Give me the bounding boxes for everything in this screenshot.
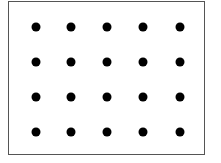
grid-dot xyxy=(67,93,76,102)
grid-dot xyxy=(176,58,185,67)
grid-dot xyxy=(67,58,76,67)
grid-dot xyxy=(139,93,148,102)
grid-dot xyxy=(32,58,41,67)
grid-dot xyxy=(103,58,112,67)
grid-dot xyxy=(176,93,185,102)
grid-dot xyxy=(103,93,112,102)
grid-dot xyxy=(67,23,76,32)
grid-dot xyxy=(32,128,41,137)
grid-dot xyxy=(67,128,76,137)
grid-dot xyxy=(103,128,112,137)
grid-dot xyxy=(32,23,41,32)
grid-dot xyxy=(176,128,185,137)
grid-dot xyxy=(139,58,148,67)
grid-dot xyxy=(139,23,148,32)
grid-dot xyxy=(176,23,185,32)
grid-dot xyxy=(32,93,41,102)
grid-dot xyxy=(139,128,148,137)
grid-dot xyxy=(103,23,112,32)
